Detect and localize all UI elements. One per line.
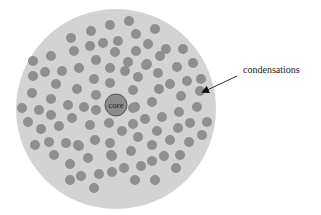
condensation-dot bbox=[173, 123, 183, 133]
condensation-dot bbox=[106, 150, 116, 160]
condensation-dot bbox=[128, 119, 138, 129]
condensation-dot bbox=[147, 156, 157, 166]
condensation-dot bbox=[130, 102, 140, 112]
condensation-dot bbox=[117, 126, 127, 136]
condensation-dot bbox=[83, 153, 93, 163]
condensation-dot bbox=[110, 47, 120, 57]
condensation-dot bbox=[54, 121, 64, 131]
condensation-dot bbox=[178, 44, 188, 54]
condensation-dot bbox=[188, 58, 198, 68]
condensation-dot bbox=[67, 113, 77, 123]
condensation-dot bbox=[196, 74, 206, 84]
condensation-dot bbox=[65, 159, 75, 169]
condensation-dot bbox=[36, 124, 46, 134]
condensation-dot bbox=[153, 68, 163, 78]
condensation-dot bbox=[155, 51, 165, 61]
condensation-dot bbox=[105, 138, 115, 148]
condensation-dot bbox=[195, 86, 205, 96]
condensation-dot bbox=[140, 114, 150, 124]
condensation-dot bbox=[185, 118, 195, 128]
condensation-dot bbox=[85, 120, 95, 130]
condensation-dot bbox=[176, 91, 186, 101]
condensation-dot bbox=[165, 135, 175, 145]
condensation-dot bbox=[91, 90, 101, 100]
condensation-dot bbox=[17, 103, 27, 113]
condensation-dot bbox=[131, 46, 141, 56]
condensation-dot bbox=[89, 74, 99, 84]
condensation-dot bbox=[130, 175, 140, 185]
core-label: core bbox=[108, 100, 124, 110]
condensation-dot bbox=[66, 33, 76, 43]
condensation-dot bbox=[49, 150, 59, 160]
condensation-dot bbox=[131, 29, 141, 39]
condensation-dot bbox=[120, 66, 130, 76]
condensation-dot bbox=[123, 57, 133, 67]
condensation-dot bbox=[94, 169, 104, 179]
condensation-dot bbox=[91, 55, 101, 65]
condensation-dot bbox=[105, 20, 115, 30]
condensation-dot bbox=[154, 84, 164, 94]
condensation-dot bbox=[175, 150, 185, 160]
condensation-dot bbox=[28, 56, 38, 66]
condensation-dot bbox=[72, 84, 82, 94]
condensation-dot bbox=[133, 72, 143, 82]
condensation-dot bbox=[105, 78, 115, 88]
condensation-dot bbox=[119, 163, 129, 173]
condensation-dot bbox=[184, 137, 194, 147]
condensation-dot bbox=[63, 100, 73, 110]
condensation-dot bbox=[44, 137, 54, 147]
condensation-dot bbox=[27, 88, 37, 98]
condensation-dot bbox=[157, 112, 167, 122]
condensation-dot bbox=[126, 146, 136, 156]
condensation-dot bbox=[197, 130, 207, 140]
condensation-dot bbox=[40, 67, 50, 77]
condensation-dot bbox=[76, 171, 86, 181]
condensation-dot bbox=[182, 76, 192, 86]
condensation-dot bbox=[152, 126, 162, 136]
condensation-dot bbox=[107, 167, 117, 177]
condensation-dot bbox=[128, 85, 138, 95]
condensation-dot bbox=[133, 132, 143, 142]
condensation-dot bbox=[147, 140, 157, 150]
condensation-dot bbox=[171, 163, 181, 173]
condensation-dot bbox=[143, 39, 153, 49]
condensation-dot bbox=[34, 105, 44, 115]
condensation-dot bbox=[136, 161, 146, 171]
condensation-dot bbox=[46, 94, 56, 104]
condensation-dot bbox=[150, 175, 160, 185]
condensation-dot bbox=[202, 117, 212, 127]
condensation-dot bbox=[159, 151, 169, 161]
condensation-dot bbox=[30, 140, 40, 150]
condensation-dot bbox=[150, 24, 160, 34]
condensations-label: condensations bbox=[243, 64, 300, 75]
condensation-dot bbox=[86, 26, 96, 36]
condensation-dot bbox=[91, 105, 101, 115]
condensation-dot bbox=[172, 62, 182, 72]
condensation-dot bbox=[105, 63, 115, 73]
condensation-dot bbox=[192, 102, 202, 112]
condensation-dot bbox=[113, 36, 123, 46]
condensation-dot bbox=[90, 135, 100, 145]
condensation-dot bbox=[65, 175, 75, 185]
condensation-dot bbox=[74, 63, 84, 73]
condensation-dot bbox=[89, 183, 99, 193]
condensation-dot bbox=[46, 110, 56, 120]
condensation-dot bbox=[142, 59, 152, 69]
condensation-dot bbox=[79, 102, 89, 112]
condensation-dot bbox=[74, 141, 84, 151]
condensation-dot bbox=[61, 138, 71, 148]
condensation-dot bbox=[69, 46, 79, 56]
condensation-dot bbox=[85, 41, 95, 51]
condensation-dot bbox=[23, 117, 33, 127]
condensation-dot bbox=[57, 66, 67, 76]
condensation-dot bbox=[46, 51, 56, 61]
condensation-dot bbox=[174, 107, 184, 117]
condensation-dot bbox=[28, 71, 38, 81]
condensation-dot bbox=[124, 16, 134, 26]
condensation-dot bbox=[104, 118, 114, 128]
condensation-dot bbox=[147, 97, 157, 107]
condensation-dot bbox=[51, 79, 61, 89]
condensation-dot bbox=[165, 79, 175, 89]
condensation-diagram: core bbox=[0, 0, 321, 215]
condensation-dot bbox=[98, 38, 108, 48]
